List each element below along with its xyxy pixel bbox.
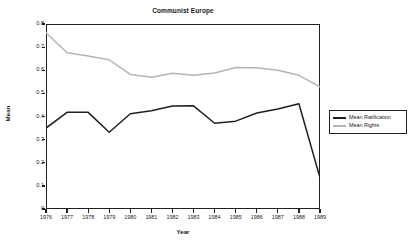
chart-legend: Mean Ratification Mean Rights <box>329 110 407 134</box>
legend-item-mean-rights: Mean Rights <box>333 122 403 130</box>
chart-figure: Communist Europe 0.80.70.60.50.40.30.20.… <box>0 0 413 247</box>
x-tick-mark <box>298 209 299 213</box>
legend-item-mean-ratification: Mean Ratification <box>333 114 403 122</box>
x-tick-label: 1989 <box>307 215 333 220</box>
y-tick-mark <box>42 139 45 140</box>
y-tick-mark <box>42 23 45 24</box>
x-tick-mark <box>172 209 173 213</box>
x-tick-mark <box>45 209 46 213</box>
series-line <box>46 33 320 87</box>
y-tick-mark <box>42 47 45 48</box>
y-tick-mark <box>42 208 45 209</box>
x-tick-mark <box>151 209 152 213</box>
x-tick-mark <box>130 209 131 213</box>
x-tick-mark <box>319 209 320 213</box>
chart-title: Communist Europe <box>46 7 320 14</box>
y-axis-title: Mean <box>4 94 11 134</box>
x-tick-mark <box>66 209 67 213</box>
y-tick-mark <box>42 116 45 117</box>
x-tick-mark <box>214 209 215 213</box>
legend-item-label: Mean Rights <box>349 123 379 128</box>
x-tick-mark <box>277 209 278 213</box>
plot-lines <box>46 24 320 209</box>
series-line <box>46 104 320 178</box>
y-tick-mark <box>42 162 45 163</box>
x-tick-mark <box>88 209 89 213</box>
legend-swatch-icon <box>333 125 346 127</box>
legend-item-label: Mean Ratification <box>349 115 391 120</box>
y-tick-mark <box>42 70 45 71</box>
legend-swatch-icon <box>333 117 346 119</box>
x-tick-mark <box>235 209 236 213</box>
y-axis-ticks: 0.80.70.60.50.40.30.20.10 <box>22 0 44 247</box>
y-tick-mark <box>42 93 45 94</box>
x-axis-title: Year <box>46 228 320 235</box>
x-tick-mark <box>109 209 110 213</box>
y-tick-mark <box>42 185 45 186</box>
x-tick-mark <box>256 209 257 213</box>
x-tick-mark <box>193 209 194 213</box>
